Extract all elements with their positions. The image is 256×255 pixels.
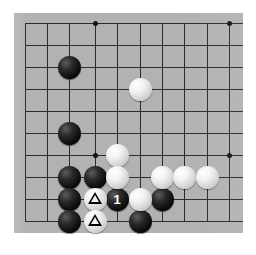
black-stone[interactable]: [129, 210, 152, 233]
marked-white-stone[interactable]: [84, 188, 107, 211]
triangle-mark-icon: [88, 192, 102, 204]
star-point: [227, 153, 232, 158]
grid-line-vertical: [47, 23, 48, 221]
triangle-mark-icon: [88, 214, 102, 226]
white-stone[interactable]: [173, 166, 196, 189]
grid-line-horizontal: [25, 23, 243, 24]
star-point: [93, 153, 98, 158]
grid-line-vertical: [229, 23, 230, 221]
grid-line-vertical: [207, 23, 208, 221]
white-stone[interactable]: [196, 166, 219, 189]
grid-line-vertical: [184, 23, 185, 221]
black-stone[interactable]: [58, 188, 81, 211]
grid-line-horizontal: [25, 45, 243, 46]
go-board[interactable]: 1: [14, 13, 243, 233]
white-stone[interactable]: [106, 144, 129, 167]
grid-line-horizontal: [25, 111, 243, 112]
go-diagram-page: 1: [0, 0, 256, 255]
move-number-label: 1: [106, 188, 129, 211]
move-stone-1[interactable]: 1: [106, 188, 129, 211]
black-stone[interactable]: [58, 122, 81, 145]
black-stone[interactable]: [58, 166, 81, 189]
black-stone[interactable]: [84, 166, 107, 189]
white-stone[interactable]: [151, 166, 174, 189]
black-stone[interactable]: [58, 210, 81, 233]
white-stone[interactable]: [129, 78, 152, 101]
grid-line-vertical: [25, 23, 26, 221]
star-point: [93, 21, 98, 26]
white-stone[interactable]: [129, 188, 152, 211]
triangle-mark-inner: [91, 217, 99, 224]
triangle-mark-inner: [91, 195, 99, 202]
black-stone[interactable]: [58, 56, 81, 79]
marked-white-stone[interactable]: [84, 210, 107, 233]
star-point: [227, 21, 232, 26]
white-stone[interactable]: [106, 166, 129, 189]
black-stone[interactable]: [151, 188, 174, 211]
grid-line-horizontal: [25, 155, 243, 156]
